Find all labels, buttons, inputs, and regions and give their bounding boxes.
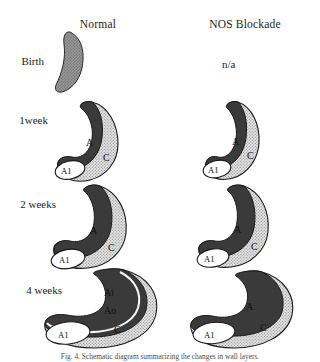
region-label-A: A — [86, 137, 94, 148]
region-label-C: C — [108, 242, 115, 253]
region-label-A1: A1 — [208, 165, 219, 175]
specimen-2weeks-normal: A C A1 — [44, 180, 184, 272]
region-label-A1: A1 — [61, 166, 72, 176]
figure-panel: Normal NOS Blockade Birth 1week 2 weeks … — [0, 0, 320, 362]
specimen-1week-normal: A C A1 — [48, 96, 178, 188]
region-label-A: A — [232, 136, 240, 147]
column-header-nos-blockade: NOS Blockade — [180, 18, 310, 30]
region-label-A: A — [90, 225, 98, 236]
specimen-4weeks-normal: Ai Ao C A1 — [36, 266, 188, 352]
region-label-C: C — [114, 324, 121, 335]
region-label-C: C — [247, 150, 254, 161]
specimen-1week-nos: A C A1 — [196, 96, 320, 188]
region-label-C: C — [251, 241, 258, 252]
specimen-birth-normal — [38, 28, 108, 96]
region-label-A1: A1 — [204, 330, 215, 340]
region-label-Ai: Ai — [104, 287, 114, 298]
region-label-A1: A1 — [59, 255, 70, 265]
region-label-A1: A1 — [204, 254, 215, 264]
figure-caption: Fig. 4. Schematic diagram summarizing th… — [0, 351, 320, 362]
region-label-A1: A1 — [58, 330, 69, 340]
birth-vessel-shape — [55, 32, 83, 92]
region-label-C: C — [103, 152, 110, 163]
specimen-2weeks-nos: A C A1 — [190, 180, 320, 272]
region-label-A: A — [246, 301, 254, 312]
specimen-4weeks-nos: A C A1 — [184, 268, 320, 354]
region-label-A: A — [234, 224, 242, 235]
row-label-1week: 1week — [0, 114, 48, 126]
na-label-birth-nos: n/a — [222, 58, 235, 70]
region-label-C: C — [260, 322, 267, 333]
region-label-Ao: Ao — [104, 305, 116, 316]
